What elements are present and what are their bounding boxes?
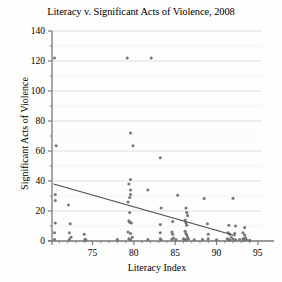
data-point (234, 238, 237, 241)
data-point (146, 238, 149, 241)
data-point (116, 238, 119, 241)
data-point (127, 200, 130, 203)
data-point (176, 194, 179, 197)
data-point (53, 238, 56, 241)
data-point (207, 237, 210, 240)
x-tick-label: 85 (170, 248, 180, 258)
data-point (238, 238, 241, 241)
data-point (186, 214, 189, 217)
data-point (128, 211, 131, 214)
data-point (185, 224, 188, 227)
y-tick-label: 120 (31, 56, 46, 66)
data-point (126, 56, 129, 59)
data-point (207, 233, 210, 236)
data-point (129, 188, 132, 191)
data-point (160, 206, 163, 209)
data-point (129, 238, 132, 241)
y-axis-ticks: 020406080100120140 (31, 26, 52, 246)
data-point (129, 232, 132, 235)
data-point (69, 236, 72, 239)
data-point (171, 220, 174, 223)
data-point (83, 233, 86, 236)
x-tick-label: 80 (129, 248, 139, 258)
data-point (215, 238, 218, 241)
y-tick-label: 100 (31, 86, 46, 96)
data-point (54, 221, 57, 224)
data-point (172, 236, 175, 239)
data-point (234, 224, 237, 227)
data-point (193, 238, 196, 241)
data-points-group (53, 56, 251, 241)
data-point (159, 223, 162, 226)
data-point (185, 211, 188, 214)
y-tick-label: 40 (36, 176, 46, 186)
trend-line-group (54, 184, 236, 236)
x-tick-label: 75 (88, 248, 98, 258)
data-point (84, 239, 87, 242)
data-point (184, 206, 187, 209)
data-point (129, 131, 132, 134)
data-point (68, 231, 71, 234)
data-point (228, 239, 231, 242)
data-point (159, 156, 162, 159)
scatter-plot-canvas: 020406080100120140 7580859095 (0, 0, 282, 282)
y-tick-label: 140 (31, 26, 46, 36)
data-point (54, 193, 57, 196)
data-point (230, 236, 233, 239)
data-point (54, 199, 57, 202)
data-point (243, 233, 246, 236)
data-point (55, 144, 58, 147)
x-axis-ticks: 7580859095 (59, 241, 262, 258)
data-point (171, 233, 174, 236)
data-point (203, 197, 206, 200)
data-point (69, 222, 72, 225)
data-point (243, 226, 246, 229)
data-point (150, 56, 153, 59)
data-point (206, 222, 209, 225)
y-tick-label: 60 (36, 146, 46, 156)
data-point (159, 231, 162, 234)
chart-figure: Literacy v. Significant Acts of Violence… (0, 0, 282, 282)
data-point (67, 203, 70, 206)
data-point (131, 236, 134, 239)
data-point (227, 224, 230, 227)
data-point (244, 236, 247, 239)
data-point (53, 56, 56, 59)
data-point (129, 178, 132, 181)
data-point (233, 232, 236, 235)
axis-lines (48, 31, 274, 245)
gridlines-group (52, 31, 262, 241)
y-tick-label: 80 (36, 116, 46, 126)
data-point (53, 231, 56, 234)
data-point (160, 238, 163, 241)
data-point (201, 238, 204, 241)
data-point (130, 221, 133, 224)
data-point (248, 239, 251, 242)
data-point (128, 196, 131, 199)
data-point (127, 182, 130, 185)
trend-line (54, 184, 236, 236)
data-point (232, 197, 235, 200)
x-tick-label: 95 (253, 248, 263, 258)
data-point (146, 188, 149, 191)
y-tick-label: 20 (36, 206, 46, 216)
data-point (129, 193, 132, 196)
data-point (131, 144, 134, 147)
x-tick-label: 90 (212, 248, 222, 258)
y-tick-label: 0 (40, 236, 45, 246)
data-point (186, 236, 189, 239)
